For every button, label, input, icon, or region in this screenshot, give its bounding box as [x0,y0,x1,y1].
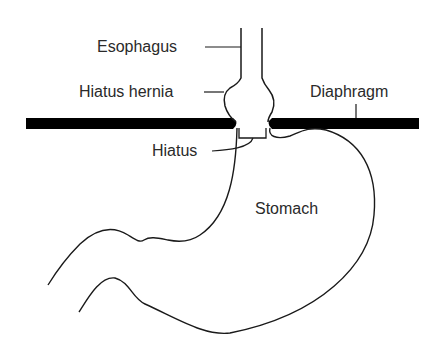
label-diaphragm: Diaphragm [310,84,388,100]
hiatus-hernia-diagram: Esophagus Hiatus hernia Diaphragm Hiatus… [0,0,441,360]
hiatus-bracket [239,128,266,138]
diaphragm [26,118,419,129]
label-esophagus: Esophagus [97,39,177,55]
hiatus-leader [212,138,253,151]
anatomy-drawing [0,0,441,360]
label-hiatus-hernia: Hiatus hernia [79,84,173,100]
esophagus-and-hernia [224,28,274,122]
label-stomach: Stomach [255,201,318,217]
stomach-outline [48,128,375,333]
label-hiatus: Hiatus [152,143,197,159]
